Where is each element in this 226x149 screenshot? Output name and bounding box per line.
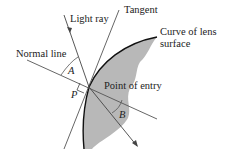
- tangent-label: Tangent: [124, 4, 158, 15]
- light-ray-label: Light ray: [70, 13, 110, 24]
- curve-label-line1: Curve of lens: [160, 26, 217, 37]
- point-of-entry-label: Point of entry: [104, 80, 162, 91]
- curve-label-line2: surface: [160, 38, 191, 49]
- point-p-label: P: [70, 89, 78, 100]
- light-ray-incident: [64, 15, 89, 87]
- angle-b-label: B: [119, 109, 126, 120]
- normal-line-label: Normal line: [16, 48, 67, 59]
- refraction-diagram: Light ray Tangent Normal line Curve of l…: [0, 0, 226, 149]
- angle-a-label: A: [67, 65, 75, 76]
